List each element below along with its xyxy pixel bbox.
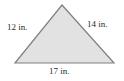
triangle-figure: 12 in. 14 in. 17 in.	[0, 0, 124, 81]
side-label-bottom: 17 in.	[49, 66, 70, 76]
side-label-left: 12 in.	[7, 22, 28, 32]
side-label-right: 14 in.	[87, 19, 108, 29]
triangle-polygon	[15, 5, 114, 63]
